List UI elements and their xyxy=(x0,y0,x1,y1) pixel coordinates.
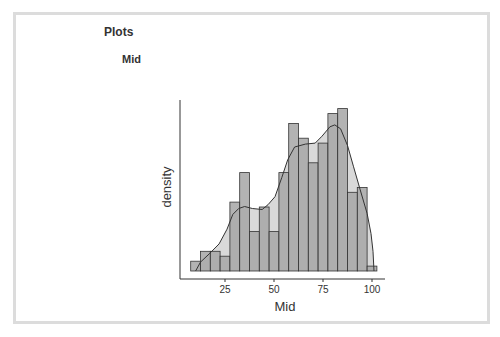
histogram-bar xyxy=(318,143,328,271)
histogram-bar xyxy=(259,207,269,271)
histogram-bar xyxy=(357,187,367,271)
histogram-bar xyxy=(191,261,201,271)
histogram-bar xyxy=(299,138,309,271)
x-tick-label: 100 xyxy=(364,284,381,295)
histogram-bar xyxy=(240,173,250,271)
histogram-bar xyxy=(289,123,299,271)
histogram-bar xyxy=(279,173,289,271)
histogram-bar xyxy=(367,266,377,271)
x-tick-label: 25 xyxy=(219,284,231,295)
histogram-bar xyxy=(328,114,338,271)
histogram-chart: 255075100 density Mid xyxy=(0,0,500,337)
y-axis-label: density xyxy=(159,166,174,208)
histogram-bar xyxy=(210,251,220,271)
histogram-bar xyxy=(348,192,358,271)
x-axis-label: Mid xyxy=(275,299,296,314)
x-tick-label: 75 xyxy=(317,284,329,295)
histogram-bar xyxy=(308,163,318,271)
histogram-bar xyxy=(250,232,260,271)
histogram-bar xyxy=(269,232,279,271)
histogram-bar xyxy=(220,256,230,271)
x-tick-label: 50 xyxy=(268,284,280,295)
